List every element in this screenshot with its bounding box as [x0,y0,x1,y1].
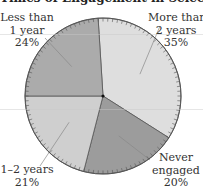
scan-band [0,109,203,110]
label-line: Less than [0,12,54,25]
center-dot [101,94,104,97]
label-never-engaged: Never engaged 20% [148,152,203,190]
label-line: Never [148,152,203,165]
label-percent: 24% [0,37,54,50]
label-percent: 21% [0,177,54,190]
label-line: More than [148,12,203,25]
label-line: 1–2 years [0,164,54,177]
label-percent: 35% [148,37,203,50]
label-less-than-1-year: Less than 1 year 24% [0,12,54,50]
label-more-than-2-years: More than 2 years 35% [148,12,203,50]
label-1-2-years: 1–2 years 21% [0,164,54,189]
label-percent: 20% [148,177,203,190]
